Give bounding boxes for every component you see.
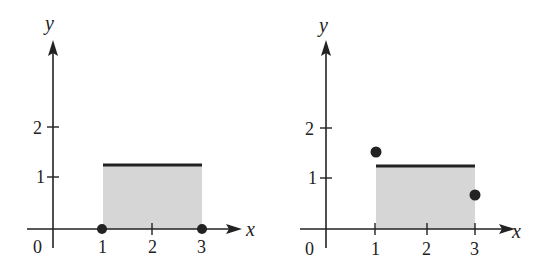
right-graph: y x 0 1 2 3 1 2 [300, 14, 521, 259]
x-tick-label: 1 [98, 237, 107, 257]
origin-label: 0 [33, 237, 42, 257]
y-axis-label: y [317, 14, 328, 37]
y-axis-label: y [43, 12, 54, 35]
point [371, 147, 382, 158]
x-axis-label: x [511, 220, 521, 242]
x-axis-label: x [245, 218, 255, 240]
shaded-region [103, 165, 202, 229]
figure: y x 0 1 2 3 1 2 y x 0 1 2 3 1 2 [0, 0, 551, 270]
origin-label: 0 [305, 239, 314, 259]
y-tick-label: 1 [308, 168, 317, 188]
left-graph: y x 0 1 2 3 1 2 [27, 12, 255, 257]
y-tick-label: 2 [33, 118, 42, 138]
x-tick-label: 3 [470, 239, 479, 259]
shaded-region [376, 166, 475, 229]
x-tick-label: 1 [371, 239, 380, 259]
x-tick-label: 2 [148, 237, 157, 257]
y-tick-label: 1 [36, 167, 45, 187]
x-tick-label: 3 [197, 237, 206, 257]
y-tick-label: 2 [305, 119, 314, 139]
x-tick-label: 2 [422, 239, 431, 259]
point [97, 224, 107, 234]
point [197, 224, 207, 234]
point [470, 190, 481, 201]
